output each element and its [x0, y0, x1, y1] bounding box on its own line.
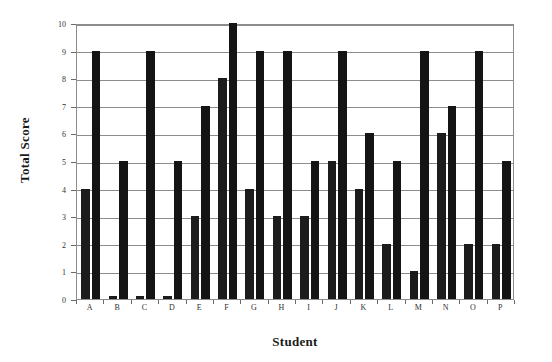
- bar: [464, 244, 473, 299]
- bar-chart: Total Score 012345678910 ABCDEFGHIJKLMNO…: [0, 0, 552, 362]
- bar: [163, 296, 172, 299]
- bar: [393, 161, 402, 299]
- x-tick-label: P: [498, 303, 502, 312]
- y-tick-label: 1: [62, 268, 66, 277]
- bar: [119, 161, 128, 299]
- y-tick-label: 3: [62, 213, 66, 222]
- x-tick-mark: [322, 300, 323, 304]
- x-tick-label: E: [197, 303, 202, 312]
- bars-layer: [77, 25, 513, 299]
- bar: [437, 133, 446, 299]
- x-tick-mark: [459, 300, 460, 304]
- x-tick-label: J: [335, 303, 338, 312]
- x-tick-label: C: [142, 303, 147, 312]
- y-tick-label: 4: [62, 185, 66, 194]
- bar: [81, 189, 90, 299]
- x-tick-mark: [131, 300, 132, 304]
- bar: [283, 51, 292, 299]
- bar: [338, 51, 347, 299]
- bar: [300, 216, 309, 299]
- x-tick-label: H: [278, 303, 284, 312]
- bar: [273, 216, 282, 299]
- bar: [92, 51, 101, 299]
- x-tick-label: M: [415, 303, 422, 312]
- bar: [229, 23, 238, 299]
- bar: [355, 189, 364, 299]
- y-tick-label: 2: [62, 240, 66, 249]
- x-tick-mark: [186, 300, 187, 304]
- bar: [218, 78, 227, 299]
- x-tick-mark: [268, 300, 269, 304]
- x-tick-mark: [213, 300, 214, 304]
- bar: [174, 161, 183, 299]
- x-tick-label: G: [251, 303, 257, 312]
- x-tick-label: A: [87, 303, 93, 312]
- x-tick-mark: [487, 300, 488, 304]
- y-tick-label: 10: [58, 20, 66, 29]
- x-tick-label: O: [470, 303, 476, 312]
- bar: [502, 161, 511, 299]
- x-tick-mark: [295, 300, 296, 304]
- bar: [201, 106, 210, 299]
- bar: [365, 133, 374, 299]
- x-tick-mark: [158, 300, 159, 304]
- bar: [475, 51, 484, 299]
- x-tick-mark: [514, 300, 515, 304]
- bar: [382, 244, 391, 299]
- bar: [492, 244, 501, 299]
- x-tick-label: D: [169, 303, 175, 312]
- bar: [410, 271, 419, 299]
- bar: [311, 161, 320, 299]
- bar: [136, 296, 145, 299]
- y-axis-ticks: 012345678910: [0, 0, 76, 362]
- y-tick-label: 6: [62, 130, 66, 139]
- bar: [420, 51, 429, 299]
- bar: [245, 189, 254, 299]
- bar: [146, 51, 155, 299]
- x-tick-mark: [240, 300, 241, 304]
- x-tick-mark: [103, 300, 104, 304]
- bar: [448, 106, 457, 299]
- bar: [256, 51, 265, 299]
- y-tick-label: 0: [62, 296, 66, 305]
- x-axis-title: Student: [76, 334, 514, 350]
- x-tick-mark: [350, 300, 351, 304]
- y-tick-label: 8: [62, 75, 66, 84]
- x-tick-label: N: [443, 303, 449, 312]
- x-tick-label: F: [224, 303, 228, 312]
- x-tick-label: K: [361, 303, 367, 312]
- x-tick-mark: [377, 300, 378, 304]
- bar: [328, 161, 337, 299]
- y-tick-label: 5: [62, 158, 66, 167]
- x-tick-mark: [405, 300, 406, 304]
- x-tick-label: I: [307, 303, 310, 312]
- x-tick-label: L: [388, 303, 393, 312]
- plot-area: [76, 24, 514, 300]
- x-axis-ticks: ABCDEFGHIJKLMNOP: [76, 303, 514, 319]
- x-tick-mark: [76, 300, 77, 304]
- bar: [109, 296, 118, 299]
- bar: [191, 216, 200, 299]
- x-tick-label: B: [114, 303, 119, 312]
- y-tick-label: 7: [62, 102, 66, 111]
- y-tick-label: 9: [62, 47, 66, 56]
- x-tick-mark: [432, 300, 433, 304]
